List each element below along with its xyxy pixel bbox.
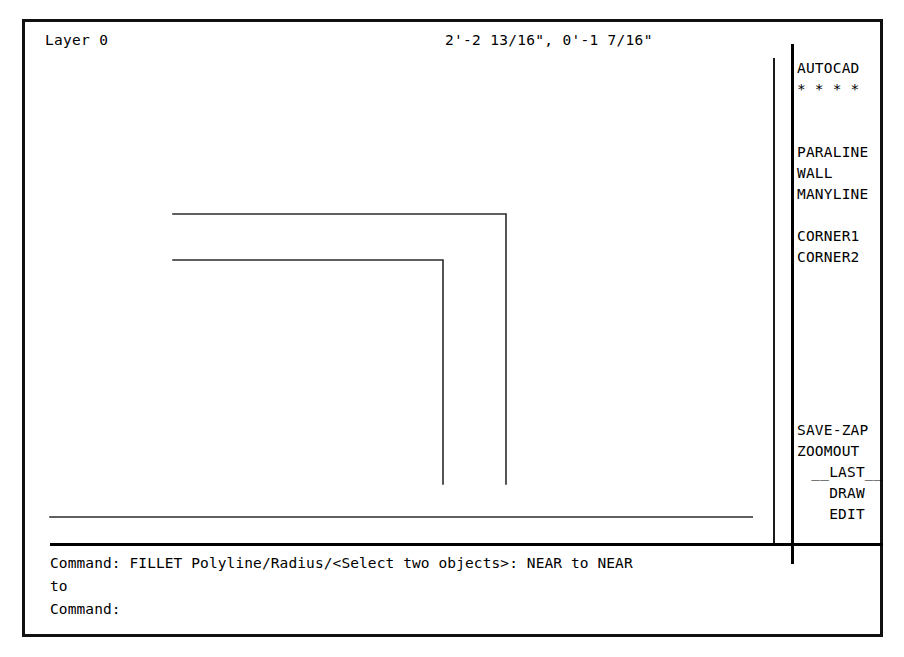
drawing-canvas: [28, 25, 753, 535]
outer-wall-line[interactable]: [173, 214, 506, 484]
menu-item-draw[interactable]: DRAW: [797, 483, 904, 504]
command-area-separator: [50, 543, 883, 546]
menu-title-autocad[interactable]: AUTOCAD: [797, 58, 904, 79]
menu-group-corner-tools: CORNER1 CORNER2: [797, 226, 904, 268]
command-line-history-2: to: [50, 575, 870, 598]
menu-item-wall[interactable]: WALL: [797, 163, 904, 184]
menu-item-manyline[interactable]: MANYLINE: [797, 184, 904, 205]
drawing-area[interactable]: [28, 25, 753, 535]
inner-wall-line[interactable]: [173, 260, 443, 484]
command-prompt-area[interactable]: Command: FILLET Polyline/Radius/<Select …: [50, 552, 870, 632]
menu-separator-asterisks[interactable]: * * * *: [797, 79, 904, 100]
menu-group-draw-tools: PARALINE WALL MANYLINE: [797, 142, 904, 205]
side-menu-divider: [791, 44, 794, 564]
menu-item-paraline[interactable]: PARALINE: [797, 142, 904, 163]
menu-item-save-zap[interactable]: SAVE-ZAP: [797, 420, 904, 441]
coordinate-readout: 2'-2 13/16", 0'-1 7/16": [445, 32, 653, 48]
menu-group-header: AUTOCAD * * * *: [797, 58, 904, 100]
command-line-prompt[interactable]: Command:: [50, 598, 870, 621]
menu-group-utility-tools: SAVE-ZAP ZOOMOUT __LAST__ DRAW EDIT: [797, 420, 904, 525]
menu-item-last[interactable]: __LAST__: [797, 462, 904, 483]
side-screen-menu: AUTOCAD * * * * PARALINE WALL MANYLINE C…: [797, 44, 904, 544]
menu-item-corner1[interactable]: CORNER1: [797, 226, 904, 247]
layer-indicator: Layer 0: [45, 32, 108, 48]
menu-item-corner2[interactable]: CORNER2: [797, 247, 904, 268]
drawing-area-right-rule: [773, 58, 775, 546]
status-bar: Layer 0 2'-2 13/16", 0'-1 7/16": [25, 22, 751, 60]
menu-item-edit[interactable]: EDIT: [797, 504, 904, 525]
command-line-history-1: Command: FILLET Polyline/Radius/<Select …: [50, 552, 870, 575]
menu-item-zoomout[interactable]: ZOOMOUT: [797, 441, 904, 462]
screen-frame: Layer 0 2'-2 13/16", 0'-1 7/16" AUTOCAD …: [22, 19, 883, 637]
